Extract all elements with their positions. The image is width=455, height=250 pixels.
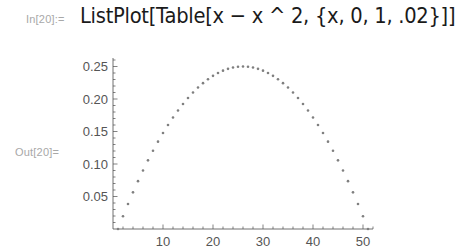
data-point	[302, 103, 305, 106]
y-tick-label: 0.25	[83, 59, 108, 74]
data-point	[122, 215, 125, 218]
y-tick-label: 0.10	[83, 157, 108, 172]
data-point	[202, 82, 205, 85]
data-point	[192, 91, 195, 94]
data-point	[127, 203, 130, 206]
data-point	[257, 68, 260, 71]
data-point	[352, 191, 355, 194]
data-point	[227, 68, 230, 71]
data-point	[277, 78, 280, 81]
x-tick-label: 30	[256, 234, 270, 249]
data-point	[252, 66, 255, 69]
data-point	[197, 86, 200, 89]
x-tick-label: 40	[306, 234, 320, 249]
data-point	[367, 228, 370, 231]
tick-labels: 10203040500.050.100.150.200.25	[83, 59, 371, 249]
data-point	[292, 91, 295, 94]
data-point	[157, 140, 160, 143]
data-point	[117, 228, 120, 231]
data-point	[307, 109, 310, 112]
data-point	[357, 203, 360, 206]
data-point	[132, 191, 135, 194]
data-point	[312, 116, 315, 119]
x-tick-label: 20	[206, 234, 220, 249]
plot-axes	[113, 58, 373, 229]
data-point	[187, 97, 190, 100]
data-point	[297, 97, 300, 100]
data-point	[287, 86, 290, 89]
data-point	[162, 132, 165, 135]
y-tick-label: 0.20	[83, 92, 108, 107]
x-tick-label: 10	[156, 234, 170, 249]
data-point	[232, 66, 235, 69]
data-point	[172, 116, 175, 119]
y-tick-label: 0.05	[83, 189, 108, 204]
y-tick-label: 0.15	[83, 124, 108, 139]
data-point	[182, 103, 185, 106]
data-point	[167, 124, 170, 127]
data-point	[322, 132, 325, 135]
data-point	[362, 215, 365, 218]
data-points	[117, 65, 370, 230]
data-point	[137, 180, 140, 183]
data-point	[237, 65, 240, 68]
data-point	[142, 169, 145, 172]
data-point	[282, 82, 285, 85]
data-point	[147, 159, 150, 162]
data-point	[342, 169, 345, 172]
data-point	[327, 140, 330, 143]
data-point	[337, 159, 340, 162]
data-point	[242, 65, 245, 68]
data-point	[267, 72, 270, 75]
data-point	[222, 69, 225, 72]
data-point	[247, 65, 250, 68]
data-point	[177, 109, 180, 112]
x-tick-label: 50	[356, 234, 370, 249]
data-point	[262, 69, 265, 72]
data-point	[317, 124, 320, 127]
data-point	[217, 72, 220, 75]
data-point	[347, 180, 350, 183]
data-point	[212, 75, 215, 78]
data-point	[152, 149, 155, 152]
data-point	[332, 149, 335, 152]
data-point	[207, 78, 210, 81]
data-point	[272, 75, 275, 78]
